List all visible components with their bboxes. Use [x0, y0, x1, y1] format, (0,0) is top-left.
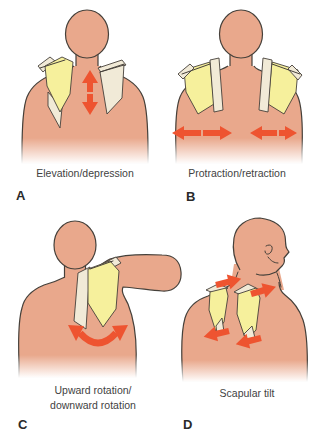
head: [220, 10, 263, 58]
head: [66, 10, 109, 58]
panel-b-illustration: [156, 2, 306, 164]
bottom-fade: [172, 360, 310, 382]
panel-d-caption: Scapular tilt: [172, 386, 311, 401]
panel-c-caption: Upward rotation/ downward rotation: [18, 383, 168, 413]
panel-d-letter: D: [183, 417, 192, 432]
panel-a-illustration: [10, 2, 160, 164]
head-profile: [233, 218, 289, 275]
panel-a-caption: Elevation/depression: [10, 166, 160, 181]
bottom-fade: [18, 355, 188, 378]
bottom-fade: [156, 138, 306, 164]
head: [54, 221, 96, 269]
panel-b-letter: B: [186, 189, 195, 204]
panel-b-caption: Protraction/retraction: [162, 166, 311, 181]
panel-c-illustration: [18, 213, 188, 378]
figure-page: Elevation/depression Protraction/retract…: [0, 0, 311, 442]
panel-c-letter: C: [18, 417, 27, 432]
panel-d-illustration: [172, 214, 310, 382]
panel-a-letter: A: [16, 188, 25, 203]
bottom-fade: [10, 138, 160, 164]
